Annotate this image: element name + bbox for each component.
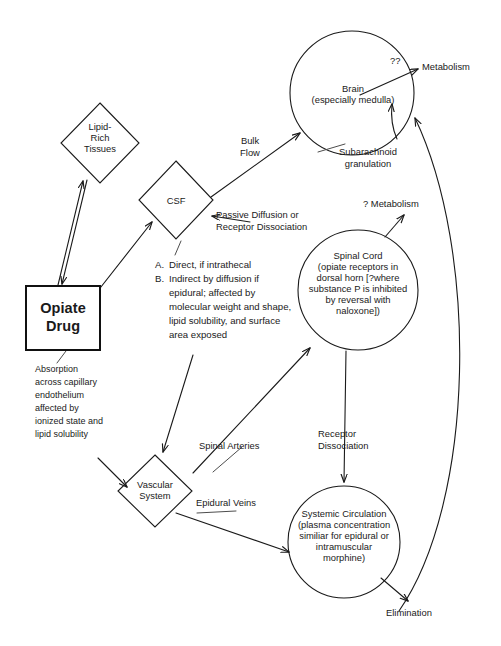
label-epidural-veins: Epidural Veins bbox=[196, 497, 256, 509]
label-spinal-arteries: Spinal Arteries bbox=[199, 440, 259, 452]
label-spinal-metabolism: ? Metabolism bbox=[363, 198, 419, 210]
edge-brain-to-metabolism bbox=[360, 69, 418, 95]
systemic-circulation-circle bbox=[288, 486, 400, 598]
label-bulk-flow: Bulk Flow bbox=[228, 135, 272, 159]
edge-opiate-to-csf bbox=[97, 222, 152, 292]
edge-opiate-to-lipid bbox=[58, 181, 83, 285]
spinal-cord-circle bbox=[298, 230, 418, 350]
label-passive-diffusion: Passive Diffusion or Receptor Dissociati… bbox=[216, 209, 307, 233]
edge-spinalcord-to-systemic bbox=[344, 351, 346, 482]
route-marker-a: A. bbox=[155, 258, 169, 272]
route-text-b: Indirect by diffusion if epidural; affec… bbox=[169, 272, 295, 342]
edge-systemic-to-elimination bbox=[381, 578, 408, 601]
note-route-list: A. Direct, if intrathecal B. Indirect by… bbox=[155, 258, 295, 341]
node-opiate-drug-line2: Drug bbox=[46, 318, 80, 336]
label-brain-metabolism: Metabolism bbox=[422, 61, 470, 73]
label-elimination: Elimination bbox=[386, 607, 432, 619]
edge-vascular-to-spinalcord bbox=[193, 348, 310, 473]
lipid-rich-tissues-diamond bbox=[61, 103, 139, 183]
edge-vascular-to-systemic bbox=[176, 513, 289, 552]
node-opiate-drug-line1: Opiate bbox=[40, 300, 86, 318]
edge-systemic-to-brain-return bbox=[399, 118, 460, 611]
route-marker-b: B. bbox=[155, 272, 169, 342]
edge-lipid-to-opiate bbox=[62, 180, 87, 284]
route-text-a: Direct, if intrathecal bbox=[169, 258, 295, 272]
note-absorption: Absorption across capillary endothelium … bbox=[35, 363, 145, 441]
edge-opiate-to-vascular bbox=[98, 458, 127, 487]
list-item: A. Direct, if intrathecal bbox=[155, 258, 295, 272]
leader-epidural-veins bbox=[197, 511, 236, 513]
edge-routes-to-vascular bbox=[163, 355, 193, 452]
label-receptor-dissociation: Receptor Dissociation bbox=[318, 428, 369, 452]
edge-spinalcord-to-metabolism bbox=[385, 215, 404, 237]
edge-subarachnoid-granulation bbox=[392, 104, 397, 139]
node-opiate-drug[interactable]: Opiate Drug bbox=[25, 285, 101, 351]
csf-diamond bbox=[139, 161, 213, 239]
label-brain-metabolism-query: ?? bbox=[390, 55, 400, 67]
label-subarachnoid-granulation: Subarachnoid granulation bbox=[324, 146, 412, 170]
leader-route-list bbox=[175, 241, 181, 255]
list-item: B. Indirect by diffusion if epidural; af… bbox=[155, 272, 295, 342]
diagram-canvas: Opiate Drug Lipid- Rich Tissues CSF Vasc… bbox=[0, 0, 501, 646]
vascular-system-diamond bbox=[118, 455, 192, 527]
leader-absorption bbox=[57, 351, 66, 363]
